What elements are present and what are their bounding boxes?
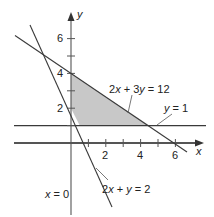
y-axis-arrow-icon (68, 12, 75, 21)
leader-eq3 (96, 168, 108, 180)
y-tick-label-4: 4 (57, 67, 63, 79)
label-y-equals-1: y = 1 (163, 102, 188, 114)
label-2x-plus-y-equals-2: 2x + y = 2 (102, 183, 150, 195)
y-axis-label: y (76, 8, 84, 20)
x-tick-label-2: 2 (102, 149, 108, 161)
leader-eq1 (128, 95, 132, 113)
label-2x-plus-3y-equals-12: 2x + 3y = 12 (109, 83, 170, 95)
x-tick-label-4: 4 (137, 149, 143, 161)
y-tick-label-2: 2 (57, 102, 63, 114)
linear-programming-graph: 2 4 6 2 4 6 y x 2x + 3y = 12 y = 1 2x + … (0, 0, 214, 217)
label-x-equals-0: x = 0 (44, 188, 69, 200)
leader-eq2 (157, 114, 172, 125)
y-tick-label-6: 6 (57, 32, 63, 44)
x-tick-label-6: 6 (172, 149, 178, 161)
x-axis-label: x (195, 145, 202, 157)
